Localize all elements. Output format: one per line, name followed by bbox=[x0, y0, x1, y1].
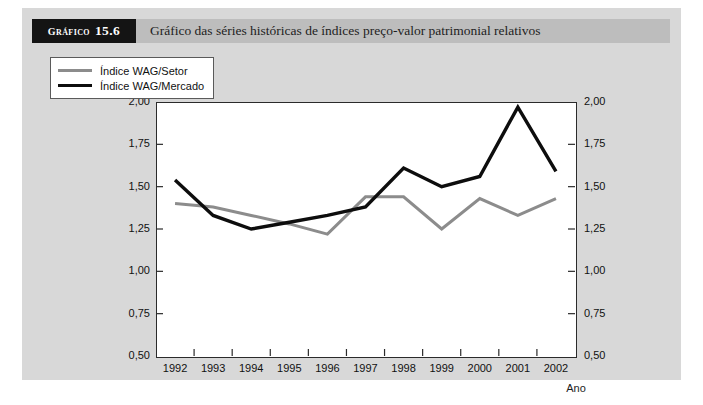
figure-plate: Gráfico 15.6 Gráfico das séries históric… bbox=[22, 8, 681, 380]
y-axis-tick-label-right: 1,75 bbox=[584, 137, 605, 149]
y-axis-tick-label-right: 1,25 bbox=[584, 222, 605, 234]
y-axis-tick-label-right: 0,75 bbox=[584, 307, 605, 319]
legend-label-mercado: Índice WAG/Mercado bbox=[100, 80, 204, 92]
figure-title: Gráfico das séries históricas de índices… bbox=[150, 19, 541, 43]
y-axis-tick-label: 1,00 bbox=[129, 264, 150, 276]
legend-swatch-mercado-icon bbox=[58, 84, 92, 87]
y-axis-tick-label: 0,75 bbox=[129, 307, 150, 319]
y-axis-tick-label-right: 1,00 bbox=[584, 264, 605, 276]
legend-item-setor: Índice WAG/Setor bbox=[58, 63, 204, 78]
axis-ticks bbox=[156, 144, 575, 356]
chart-legend: Índice WAG/Setor Índice WAG/Mercado bbox=[50, 57, 214, 99]
figure-header: Gráfico 15.6 Gráfico das séries históric… bbox=[32, 19, 670, 43]
series-line-setor bbox=[175, 197, 556, 234]
chart-area: Índices preço-valor patrimonial relativo… bbox=[22, 48, 681, 380]
figure-badge-number: 15.6 bbox=[95, 23, 120, 39]
y-axis-tick-label: 1,50 bbox=[129, 180, 150, 192]
y-axis-tick-label-right: 2,00 bbox=[584, 95, 605, 107]
y-axis-tick-label: 1,75 bbox=[129, 137, 150, 149]
y-axis-tick-label-right: 0,50 bbox=[584, 349, 605, 361]
y-axis-tick-label: 1,25 bbox=[129, 222, 150, 234]
y-axis-right-ticks: 2,001,751,501,251,000,750,50 bbox=[584, 48, 630, 380]
legend-label-setor: Índice WAG/Setor bbox=[100, 65, 188, 77]
x-axis-title: Ano bbox=[541, 382, 611, 394]
plot-lines bbox=[156, 102, 575, 356]
y-axis-tick-label-right: 1,50 bbox=[584, 180, 605, 192]
legend-swatch-setor-icon bbox=[58, 69, 92, 72]
figure-badge-word: Gráfico bbox=[48, 23, 90, 39]
figure-number-badge: Gráfico 15.6 bbox=[32, 19, 136, 43]
legend-item-mercado: Índice WAG/Mercado bbox=[58, 78, 204, 93]
y-axis-tick-label: 0,50 bbox=[129, 349, 150, 361]
x-axis-tick-label: 2002 bbox=[532, 362, 580, 374]
